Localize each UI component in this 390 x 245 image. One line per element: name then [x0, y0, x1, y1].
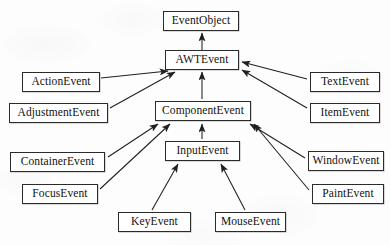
inheritance-arrow-focusevent-to-componentevent: [100, 124, 170, 189]
class-node-componentevent[interactable]: ComponentEvent: [155, 101, 251, 121]
class-node-itemevent[interactable]: ItemEvent: [310, 103, 380, 123]
inheritance-arrow-containerevent-to-componentevent: [108, 124, 158, 157]
class-node-containerevent[interactable]: ContainerEvent: [10, 152, 105, 172]
inheritance-arrow-actionevent-to-awtevent: [101, 71, 168, 78]
class-node-label: ComponentEvent: [162, 105, 244, 117]
class-node-label: ItemEvent: [321, 107, 370, 119]
class-node-keyevent[interactable]: KeyEvent: [118, 212, 191, 232]
class-node-actionevent[interactable]: ActionEvent: [22, 72, 100, 92]
class-node-label: WindowEvent: [312, 155, 379, 167]
class-node-label: EventObject: [172, 15, 231, 27]
class-node-label: KeyEvent: [131, 216, 178, 228]
class-node-label: FocusEvent: [32, 188, 87, 200]
class-node-mouseevent[interactable]: MouseEvent: [215, 212, 286, 232]
class-node-paintevent[interactable]: PaintEvent: [312, 184, 384, 204]
class-node-awtevent[interactable]: AWTEvent: [165, 50, 239, 70]
class-node-focusevent[interactable]: FocusEvent: [22, 184, 98, 204]
class-node-inputevent[interactable]: InputEvent: [165, 141, 240, 161]
inheritance-arrow-paintevent-to-componentevent: [254, 124, 309, 190]
class-node-label: TextEvent: [321, 76, 369, 88]
class-node-eventobject[interactable]: EventObject: [163, 11, 239, 31]
class-node-label: PaintEvent: [322, 188, 373, 200]
class-node-label: ContainerEvent: [21, 156, 95, 168]
class-node-label: AdjustmentEvent: [18, 107, 100, 119]
class-node-label: MouseEvent: [221, 216, 280, 228]
class-node-textevent[interactable]: TextEvent: [310, 72, 380, 92]
class-node-label: InputEvent: [176, 145, 228, 157]
inheritance-arrow-textevent-to-awtevent: [242, 62, 307, 79]
class-hierarchy-diagram: EventObjectAWTEventActionEventTextEventA…: [0, 0, 390, 245]
class-node-label: AWTEvent: [176, 54, 229, 66]
class-node-adjustmentevent[interactable]: AdjustmentEvent: [9, 103, 108, 123]
inheritance-arrow-mouseevent-to-inputevent: [221, 164, 245, 210]
inheritance-arrow-keyevent-to-inputevent: [152, 164, 178, 210]
class-node-windowevent[interactable]: WindowEvent: [308, 151, 384, 171]
inheritance-arrow-itemevent-to-awtevent: [242, 70, 307, 108]
class-node-label: ActionEvent: [31, 76, 90, 88]
